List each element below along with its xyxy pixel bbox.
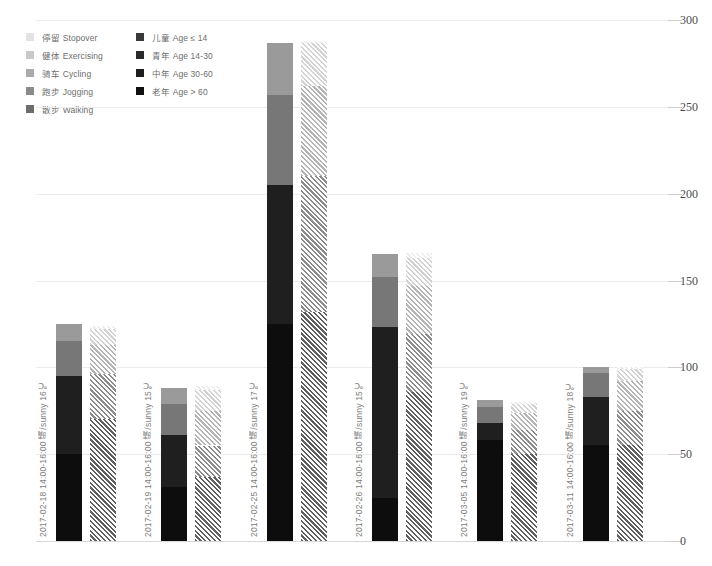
x-axis-label-1: 2017-02-19 14:00-16:00 晴/sunny 15℃ (142, 377, 154, 537)
bar-segment-activity-1-0[interactable] (90, 374, 116, 419)
gridline-250 (36, 107, 668, 108)
bar-segment-activity-2-2[interactable] (301, 86, 327, 176)
bar-segment-age-0-0[interactable] (56, 454, 82, 541)
bar-segment-activity-3-1[interactable] (195, 390, 221, 411)
bar-activity-2[interactable] (301, 20, 327, 541)
legend-swatch-icon (26, 51, 34, 59)
bar-segment-activity-2-4[interactable] (511, 413, 537, 430)
bar-segment-age-0-5[interactable] (583, 445, 609, 541)
bar-group-3 (372, 20, 432, 541)
bar-segment-age-1-4[interactable] (477, 423, 503, 440)
bar-segment-age-2-0[interactable] (56, 341, 82, 376)
bar-segment-activity-3-3[interactable] (406, 258, 432, 286)
bar-segment-age-3-2[interactable] (267, 43, 293, 95)
bar-segment-activity-2-3[interactable] (406, 286, 432, 335)
bar-group-1 (161, 20, 221, 541)
bar-activity-5[interactable] (617, 20, 643, 541)
bar-age-1[interactable] (161, 20, 187, 541)
bar-segment-activity-1-5[interactable] (617, 411, 643, 446)
y-tick-label-50: 50 (680, 447, 692, 462)
bar-segment-age-2-1[interactable] (161, 404, 187, 435)
y-tick-label-200: 200 (680, 186, 698, 201)
bar-segment-activity-4-1[interactable] (195, 386, 221, 389)
bar-age-0[interactable] (56, 20, 82, 541)
bar-group-0 (56, 20, 116, 541)
stacked-bar-chart: 停留 Stopover健体 Exercising骑车 Cycling跑步 Jog… (0, 0, 712, 566)
bar-segment-age-0-2[interactable] (267, 324, 293, 541)
bar-age-2[interactable] (267, 20, 293, 541)
bar-segment-age-1-3[interactable] (372, 327, 398, 497)
legend-swatch-icon (26, 105, 34, 113)
bar-age-3[interactable] (372, 20, 398, 541)
plot-area: 050100150200250300 2017-02-18 14:00-16:0… (36, 20, 668, 541)
x-axis-label-4: 2017-03-05 14:00-16:00 晴/sunny 19℃ (458, 377, 470, 537)
bar-segment-activity-4-0[interactable] (90, 326, 116, 329)
bar-segment-age-1-0[interactable] (56, 376, 82, 454)
bar-segment-age-1-2[interactable] (267, 185, 293, 324)
y-tick-label-250: 250 (680, 99, 698, 114)
bar-segment-age-2-2[interactable] (267, 95, 293, 185)
bar-group-2 (267, 20, 327, 541)
bar-segment-activity-4-2[interactable] (301, 41, 327, 43)
bar-activity-4[interactable] (511, 20, 537, 541)
gridline-100 (36, 367, 668, 368)
gridline-0 (36, 541, 668, 542)
bar-segment-activity-2-5[interactable] (617, 381, 643, 411)
bar-segment-activity-4-3[interactable] (406, 253, 432, 258)
bar-segment-activity-2-0[interactable] (90, 345, 116, 375)
bar-segment-activity-0-0[interactable] (90, 419, 116, 541)
bar-segment-activity-0-1[interactable] (195, 477, 221, 541)
bar-group-5 (583, 20, 643, 541)
legend-swatch-icon (26, 69, 34, 77)
x-axis-label-0: 2017-02-18 14:00-16:00 晴/sunny 16℃ (37, 377, 49, 537)
bar-age-5[interactable] (583, 20, 609, 541)
bar-segment-activity-1-4[interactable] (511, 430, 537, 454)
bar-age-4[interactable] (477, 20, 503, 541)
bar-segment-activity-0-4[interactable] (511, 454, 537, 541)
legend-swatch-icon (26, 87, 34, 95)
bar-segment-age-3-0[interactable] (56, 324, 82, 341)
bar-segment-activity-0-3[interactable] (406, 392, 432, 541)
bar-segment-activity-3-0[interactable] (90, 329, 116, 345)
gridline-150 (36, 281, 668, 282)
x-axis-label-3: 2017-02-26 14:00-16:00 晴/sunny 15℃ (353, 377, 365, 537)
bar-segment-activity-4-5[interactable] (617, 367, 643, 369)
bar-activity-3[interactable] (406, 20, 432, 541)
bar-segment-activity-3-2[interactable] (301, 43, 327, 86)
bar-segment-activity-1-2[interactable] (301, 176, 327, 311)
gridline-200 (36, 194, 668, 195)
x-axis-label-5: 2017-03-11 14:00-16:00 晴/sunny 18℃ (564, 377, 576, 537)
y-tick-label-0: 0 (680, 534, 686, 549)
y-tick-label-150: 150 (680, 273, 698, 288)
bar-segment-activity-3-5[interactable] (617, 369, 643, 381)
bar-segment-age-2-3[interactable] (372, 277, 398, 327)
bar-segment-age-3-3[interactable] (372, 254, 398, 277)
bar-segment-age-1-1[interactable] (161, 435, 187, 487)
bar-segment-age-3-1[interactable] (161, 388, 187, 404)
legend-swatch-icon (26, 33, 34, 41)
y-tick-label-100: 100 (680, 360, 698, 375)
gridline-300 (36, 20, 668, 21)
bar-segment-activity-3-4[interactable] (511, 404, 537, 413)
bar-segment-age-2-4[interactable] (477, 407, 503, 423)
x-axis-label-2: 2017-02-25 14:00-16:00 晴/sunny 17℃ (248, 377, 260, 537)
bar-segment-age-0-1[interactable] (161, 487, 187, 541)
bar-group-4 (477, 20, 537, 541)
bar-activity-1[interactable] (195, 20, 221, 541)
bar-segment-age-0-4[interactable] (477, 440, 503, 541)
bar-segment-activity-0-2[interactable] (301, 312, 327, 541)
bar-segment-activity-1-3[interactable] (406, 334, 432, 391)
bar-segment-age-0-3[interactable] (372, 498, 398, 541)
bar-segment-activity-2-1[interactable] (195, 411, 221, 446)
bar-segment-age-3-5[interactable] (583, 367, 609, 372)
y-tick-label-300: 300 (680, 13, 698, 28)
bar-segment-activity-1-1[interactable] (195, 446, 221, 477)
bar-segment-age-3-4[interactable] (477, 400, 503, 407)
bar-segment-activity-0-5[interactable] (617, 445, 643, 541)
bar-segment-age-1-5[interactable] (583, 397, 609, 446)
bar-segment-activity-4-4[interactable] (511, 402, 537, 404)
bar-activity-0[interactable] (90, 20, 116, 541)
bar-segment-age-2-5[interactable] (583, 373, 609, 397)
